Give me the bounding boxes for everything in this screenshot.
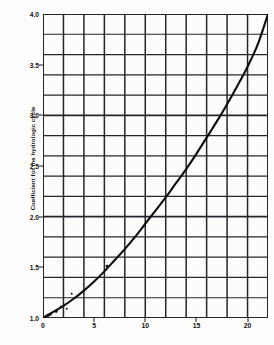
x-tick-mark [145,318,146,322]
x-tick-mark [196,318,197,322]
x-tick-mark [94,318,95,322]
data-point [106,265,109,268]
data-point [60,306,63,309]
x-tick-label: 20 [244,322,252,329]
chart-figure: Coefficient for the hydrologic cycle 1.0… [0,0,274,345]
x-tick-label: 0 [41,322,45,329]
x-tick-label: 10 [141,322,149,329]
data-point [65,308,68,311]
x-tick-mark [247,318,248,322]
data-point [55,310,58,313]
plot-area [43,14,268,318]
data-point [49,313,52,316]
data-point [70,292,73,295]
x-tick-label: 5 [92,322,96,329]
series-measured-points [43,14,268,318]
x-tick-label: 15 [193,322,201,329]
